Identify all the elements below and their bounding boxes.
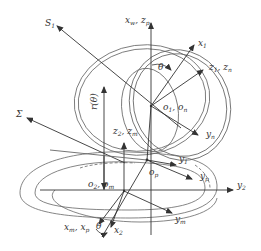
label-x2: x2 — [114, 226, 123, 236]
label-theta-bottom: θ — [96, 222, 101, 231]
label-sigma: Σ — [16, 110, 22, 119]
label-theta-top: θ — [158, 63, 163, 72]
label-z2-zm: z2, zm — [113, 127, 138, 137]
label-o2-om: o2, om — [88, 180, 114, 190]
label-yn: yn — [206, 130, 215, 140]
label-y2: y2 — [237, 181, 246, 191]
origin-op — [146, 159, 149, 162]
xm-xp-axis — [99, 191, 124, 224]
label-yp: yp — [200, 172, 209, 182]
label-s1: S1 — [45, 19, 55, 29]
label-op: op — [149, 168, 158, 178]
origin-o1-on — [150, 105, 152, 107]
label-z1-zn: z1, zn — [209, 63, 232, 73]
label-xw-zp: xw, zp — [125, 16, 150, 26]
label-ym: ym — [175, 215, 186, 225]
label-o1-on: o1, on — [163, 103, 187, 113]
label-x1: x1 — [198, 39, 207, 49]
label-y1: y1 — [179, 155, 188, 165]
origin-o2-om — [123, 190, 125, 192]
label-r-theta: r(θ) — [90, 93, 99, 110]
label-xm-xp: xm, xp — [64, 223, 89, 233]
